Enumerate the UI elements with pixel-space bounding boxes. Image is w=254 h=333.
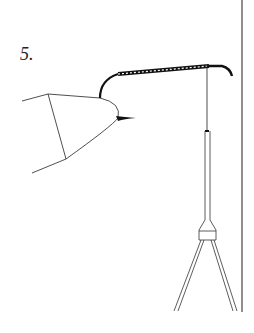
thread-wrapped-shank (118, 66, 209, 74)
vise-jaws (22, 94, 119, 173)
fly-tying-illustration (0, 0, 254, 333)
hook-point (116, 116, 136, 121)
bobbin-holder (174, 130, 237, 311)
hook-bend (100, 74, 118, 98)
hook-eye (207, 66, 232, 76)
